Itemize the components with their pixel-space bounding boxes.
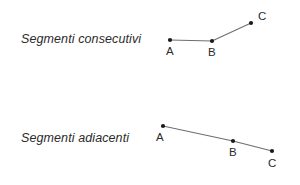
caption-segmenti-consecutivi: Segmenti consecutivi	[21, 32, 141, 46]
point-label-b-adiacenti: B	[229, 146, 237, 158]
segment-a-b	[163, 126, 233, 141]
diagram-adiacenti	[161, 124, 274, 153]
point-label-c-consecutivi: C	[258, 10, 266, 22]
diagram-consecutivi	[168, 21, 253, 43]
point-a	[161, 124, 165, 128]
geometry-figure-canvas	[0, 0, 300, 185]
point-b	[210, 39, 214, 43]
segment-a-b	[170, 40, 212, 41]
point-b	[231, 139, 235, 143]
point-label-a-consecutivi: A	[166, 45, 174, 57]
segment-b-c	[212, 23, 251, 41]
point-label-c-adiacenti: C	[268, 157, 276, 169]
caption-segmenti-adiacenti: Segmenti adiacenti	[21, 131, 129, 145]
segment-b-c	[233, 141, 272, 151]
point-c	[249, 21, 253, 25]
point-label-a-adiacenti: A	[156, 131, 164, 143]
point-label-b-consecutivi: B	[208, 46, 216, 58]
point-c	[270, 149, 274, 153]
point-a	[168, 38, 172, 42]
